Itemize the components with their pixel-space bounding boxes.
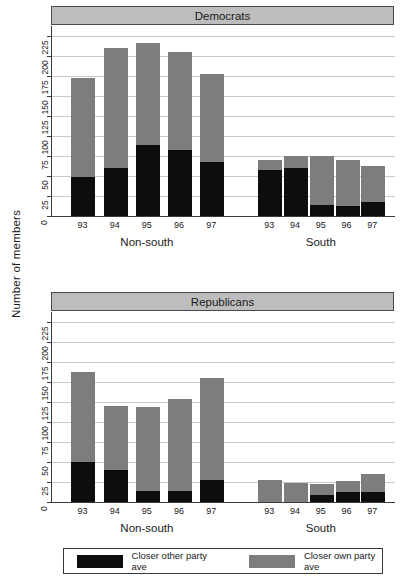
y-axis-tick-label: 100 (41, 140, 50, 154)
stacked-bar-figure: Number of members Democrats 025507510012… (0, 0, 400, 581)
bar-segment-own-party (71, 78, 95, 177)
x-axis-tick-label: 97 (199, 506, 223, 516)
y-axis-tick-label: 200 (41, 346, 50, 360)
y-axis-tick-label: 175 (41, 80, 50, 94)
y-axis-tick-label: 150 (41, 100, 50, 114)
bar-segment-own-party (310, 156, 334, 205)
x-axis-tick-label: 95 (135, 506, 159, 516)
bar (136, 407, 160, 502)
panel-title-text: Democrats (195, 10, 251, 22)
y-axis-tick-label: 200 (41, 60, 50, 74)
bar (258, 160, 282, 216)
bar-segment-own-party (336, 160, 360, 206)
x-axis-tick-label: 94 (103, 220, 127, 230)
panel-republicans: Republicans 0255075100125150175200225 93… (51, 292, 394, 548)
bar-segment-own-party (310, 484, 334, 495)
y-axis-tick (47, 176, 52, 177)
bar-segment-own-party (168, 399, 192, 491)
bar-segment-own-party (71, 372, 95, 462)
x-axis-tick-label: 97 (199, 220, 223, 230)
y-axis-tick-label: 75 (41, 446, 50, 455)
y-axis-tick (47, 502, 52, 503)
y-axis-title: Number of members (10, 164, 22, 364)
x-axis-tick-label: 97 (360, 506, 384, 516)
y-axis-tick-label: 225 (41, 326, 50, 340)
bar-segment-other-party (310, 495, 334, 502)
grid-line (52, 362, 395, 363)
bar (258, 480, 282, 502)
bar-segment-own-party (168, 52, 192, 150)
bar-segment-own-party (336, 481, 360, 492)
plot-area-democrats: 0255075100125150175200225 (51, 26, 395, 217)
bar-segment-own-party (361, 474, 385, 492)
x-axis-group-label: Non-south (87, 522, 207, 534)
bar (284, 156, 308, 216)
bar-segment-other-party (310, 205, 334, 216)
bar (168, 52, 192, 216)
x-axis-group-label: South (261, 236, 381, 248)
y-axis-tick-label: 25 (41, 486, 50, 495)
bar (310, 484, 334, 502)
bar-segment-own-party (104, 48, 128, 168)
y-axis-tick-label: 0 (41, 220, 50, 225)
x-axis-tick-label: 95 (135, 220, 159, 230)
bar-segment-other-party (336, 492, 360, 502)
x-axis-group-label: Non-south (87, 236, 207, 248)
y-axis-tick (47, 362, 52, 363)
y-axis-tick (47, 56, 52, 57)
y-axis-tick (47, 402, 52, 403)
y-axis-tick (47, 216, 52, 217)
y-axis-tick (47, 116, 52, 117)
bar-segment-other-party (168, 150, 192, 216)
y-axis-tick-label: 50 (41, 180, 50, 189)
y-axis-tick (47, 422, 52, 423)
bar-segment-own-party (200, 378, 224, 481)
bar-segment-other-party (258, 170, 282, 216)
bar-segment-other-party (200, 162, 224, 216)
bar (104, 48, 128, 216)
bar-segment-own-party (136, 43, 160, 146)
y-axis-tick-label: 150 (41, 386, 50, 400)
x-axis-tick-label: 93 (257, 506, 281, 516)
y-axis-tick (47, 36, 52, 37)
x-axis-tick-label: 97 (360, 220, 384, 230)
bar (136, 43, 160, 216)
y-axis-tick (47, 342, 52, 343)
bar-segment-other-party (361, 202, 385, 216)
y-axis-tick (47, 96, 52, 97)
y-axis-tick (47, 462, 52, 463)
x-axis-tick-label: 95 (309, 506, 333, 516)
bar-segment-other-party (136, 145, 160, 216)
bar-segment-own-party (258, 160, 282, 170)
bar-segment-own-party (284, 483, 308, 502)
bar (336, 160, 360, 216)
x-axis-tick-label: 94 (283, 506, 307, 516)
panel-title-democrats: Democrats (51, 6, 394, 25)
bar-segment-other-party (284, 168, 308, 216)
x-axis-group-label: South (261, 522, 381, 534)
bar-segment-own-party (136, 407, 160, 491)
legend-swatch-other-icon (77, 555, 123, 568)
panel-title-republicans: Republicans (51, 292, 394, 311)
bar-segment-other-party (104, 168, 128, 216)
bar-segment-other-party (71, 177, 95, 216)
y-axis-tick-label: 75 (41, 160, 50, 169)
bar (71, 372, 95, 502)
bar (104, 406, 128, 502)
grid-line (52, 322, 395, 323)
bar-segment-other-party (200, 480, 224, 502)
bar (200, 74, 224, 216)
x-axis-tick-label: 96 (167, 506, 191, 516)
bar (310, 156, 334, 216)
grid-line (52, 342, 395, 343)
legend-label-other: Closer other party ave (132, 550, 214, 572)
bar-segment-own-party (284, 156, 308, 168)
bar (336, 481, 360, 502)
y-axis-tick-label: 100 (41, 426, 50, 440)
y-axis-tick-label: 125 (41, 120, 50, 134)
bar (284, 483, 308, 502)
y-axis-tick (47, 482, 52, 483)
panel-democrats: Democrats 0255075100125150175200225 9394… (51, 6, 394, 262)
y-axis-tick-label: 25 (41, 200, 50, 209)
bar (168, 399, 192, 502)
